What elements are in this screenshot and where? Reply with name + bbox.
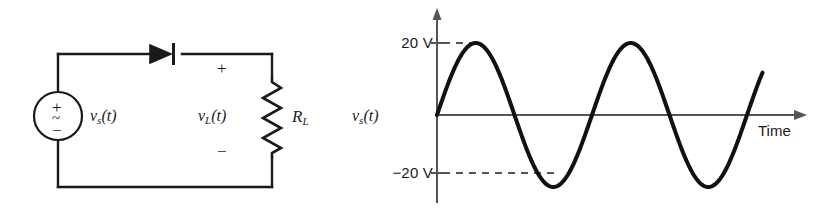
load-polarity-minus: −	[217, 143, 227, 160]
figure-root: + ~ − vs(t) + vL(t) − RL	[0, 0, 830, 215]
load-polarity-plus: +	[217, 60, 227, 77]
source-voltage-arg: (t)	[101, 107, 116, 124]
y-tick-label-negative: −20 V	[387, 165, 433, 180]
waveform-chart: 20 V −20 V vs(t) Time	[415, 0, 830, 215]
waveform-svg	[415, 0, 830, 215]
y-axis-label-arg: (t)	[363, 107, 378, 124]
y-axis-label: vs(t)	[352, 108, 379, 126]
load-voltage-arg: (t)	[211, 107, 226, 124]
x-axis	[437, 110, 807, 120]
resistor-icon	[263, 77, 281, 158]
source-voltage-label: vs(t)	[90, 108, 117, 126]
resistor-label-subscript: L	[302, 115, 308, 127]
load-voltage-label: vL(t)	[198, 108, 226, 126]
x-axis-label: Time	[758, 123, 791, 138]
y-tick-label-positive: 20 V	[395, 35, 433, 50]
diode-icon	[150, 43, 174, 65]
resistor-label-base: R	[292, 107, 302, 126]
resistor-label: RL	[292, 108, 309, 127]
diode-triangle	[150, 45, 171, 63]
source-minus-sign: −	[52, 122, 62, 139]
